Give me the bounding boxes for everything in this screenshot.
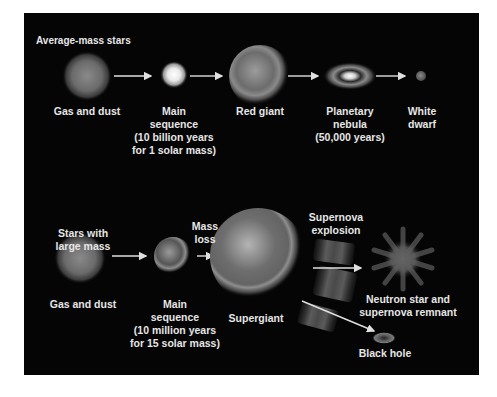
label-neutron-star: Neutron star and supernova remnant [359,293,456,319]
row-title-large-mass: Stars with large mass [56,227,111,253]
label-gas-dust: Gas and dust [54,105,121,118]
main-sequence-star-icon [160,62,188,90]
label-mass-loss: Mass loss [192,220,218,246]
neutron-star-remnant-icon [374,229,432,289]
label-black-hole: Black hole [359,347,412,360]
stellar-evolution-diagram: Average-mass stars Gas and dust Main seq… [24,13,479,375]
label-gas-dust-large: Gas and dust [50,298,117,311]
label-planetary-nebula: Planetary nebula (50,000 years) [315,105,384,144]
label-supernova: Supernova explosion [309,211,363,237]
label-main-sequence: Main sequence (10 billion years for 1 so… [132,105,216,157]
row-title-average-mass: Average-mass stars [36,35,131,46]
main-sequence-star-icon [154,237,192,275]
planetary-nebula-icon [323,62,377,90]
gas-dust-cloud-icon [62,51,112,101]
label-supergiant: Supergiant [229,312,284,325]
label-main-sequence-large: Main sequence (10 million years for 15 s… [130,298,220,350]
label-red-giant: Red giant [236,105,284,118]
white-dwarf-icon [416,71,426,81]
supergiant-icon [210,208,306,304]
red-giant-icon [229,45,291,107]
supernova-explosion-icon [297,238,358,332]
label-white-dwarf: White dwarf [408,105,437,131]
black-hole-icon [372,332,396,344]
